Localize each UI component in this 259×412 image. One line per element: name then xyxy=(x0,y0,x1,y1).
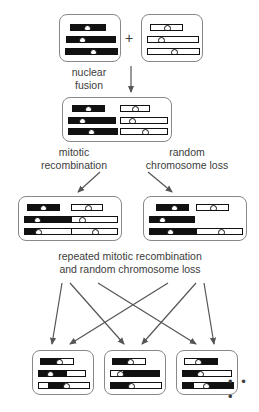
centromere xyxy=(88,129,95,135)
centromere xyxy=(167,229,174,235)
centromere xyxy=(218,229,225,235)
chromosome xyxy=(68,117,116,124)
centromere xyxy=(84,25,91,31)
label-repeated: repeated mitotic recombination and rando… xyxy=(10,250,250,275)
centromere xyxy=(63,383,70,389)
chromosome xyxy=(27,204,60,211)
chromosome xyxy=(70,24,106,31)
chromosome xyxy=(110,370,160,377)
chromosome-segment xyxy=(200,371,231,376)
label-random-loss: random chromosome loss xyxy=(128,146,246,171)
fan-right-3 xyxy=(204,283,214,344)
chromosome xyxy=(120,128,168,135)
chromosome xyxy=(71,204,103,211)
centromere xyxy=(164,25,171,31)
plus-sign: + xyxy=(125,30,133,46)
chromosome-segment xyxy=(121,118,167,123)
centromere xyxy=(132,106,139,112)
chromosome xyxy=(38,382,90,389)
centromere xyxy=(142,129,149,135)
chromosome xyxy=(184,358,218,365)
centromere xyxy=(210,205,217,211)
centromere xyxy=(195,359,202,365)
centromere xyxy=(128,383,135,389)
chromosome-segment xyxy=(123,371,146,376)
chromosome xyxy=(40,358,74,365)
chromosome-segment xyxy=(67,37,115,42)
centromere xyxy=(79,217,86,223)
cell-daughter-left xyxy=(18,196,122,241)
centromere xyxy=(171,205,178,211)
chromosome xyxy=(147,48,200,55)
chromosome-segment xyxy=(150,229,198,234)
centromere xyxy=(35,229,42,235)
chromosome xyxy=(71,216,118,223)
chromosome xyxy=(147,36,199,43)
centromere xyxy=(40,205,47,211)
chromosome xyxy=(149,216,195,223)
chromosome xyxy=(72,105,105,112)
fan-right-1 xyxy=(70,283,168,344)
fan-right-2 xyxy=(142,283,196,344)
cell-parent-white xyxy=(141,14,203,62)
chromosome-fate-diagram: nuclear fusionmitotic recombinationrando… xyxy=(0,0,259,412)
fan-left-2 xyxy=(70,283,124,344)
chromosome xyxy=(120,117,168,124)
centromere xyxy=(127,359,134,365)
chromosome-segment xyxy=(131,383,161,388)
centromere xyxy=(47,371,54,377)
centromere xyxy=(117,371,124,377)
chromosome xyxy=(196,204,229,211)
chromosome xyxy=(24,228,74,235)
chromosome xyxy=(68,128,118,135)
chromosome-segment xyxy=(39,383,48,388)
centromere xyxy=(158,37,165,43)
label-nuclear-fusion: nuclear fusion xyxy=(58,66,120,91)
chromosome-segment xyxy=(183,383,194,388)
ellipsis: • • • xyxy=(228,374,259,404)
cell-fused xyxy=(62,97,172,142)
cell-daughter-right xyxy=(143,196,247,241)
cell-final-2 xyxy=(104,350,166,395)
chromosome-segment xyxy=(148,37,198,42)
chromosome-segment xyxy=(69,118,115,123)
chromosome-segment xyxy=(146,371,159,376)
chromosome xyxy=(150,24,183,31)
fan-left-3 xyxy=(98,283,196,344)
chromosome xyxy=(149,228,199,235)
chromosome-segment xyxy=(150,217,194,222)
chromosome xyxy=(196,228,243,235)
centromere xyxy=(159,217,166,223)
chromosome xyxy=(120,105,150,112)
chromosome xyxy=(65,48,118,55)
chromosome xyxy=(112,358,146,365)
loss-arrow xyxy=(148,172,172,192)
centromere xyxy=(203,383,210,389)
chromosome xyxy=(156,204,189,211)
chromosome xyxy=(38,370,86,377)
centromere xyxy=(79,37,86,43)
centromere xyxy=(79,118,86,124)
chromosome-segment xyxy=(67,371,85,376)
label-mitotic-recomb: mitotic recombination xyxy=(22,146,126,171)
cell-final-1 xyxy=(32,350,94,395)
centromere xyxy=(90,49,97,55)
centromere xyxy=(85,106,92,112)
chromosome-segment xyxy=(25,217,71,222)
centromere xyxy=(171,49,178,55)
chromosome xyxy=(66,36,116,43)
chromosome xyxy=(71,228,118,235)
chromosome xyxy=(182,370,232,377)
chromosome xyxy=(110,382,162,389)
chromosome-segment xyxy=(38,229,73,234)
centromere xyxy=(197,371,204,377)
centromere xyxy=(56,359,63,365)
fan-left-1 xyxy=(52,283,62,344)
centromere xyxy=(129,118,136,124)
centromere xyxy=(92,229,99,235)
centromere xyxy=(85,205,92,211)
centromere xyxy=(34,217,41,223)
chromosome xyxy=(182,382,234,389)
mitotic-arrow xyxy=(78,172,100,192)
chromosome xyxy=(24,216,72,223)
